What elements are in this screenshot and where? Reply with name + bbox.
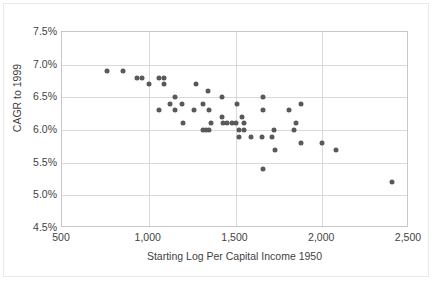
- data-point: [191, 108, 196, 113]
- y-axis-title: CAGR to 1999: [11, 43, 23, 153]
- data-point: [205, 88, 210, 93]
- data-point: [219, 114, 224, 119]
- data-point: [259, 134, 264, 139]
- gridline-horizontal: [62, 195, 407, 196]
- data-point: [209, 121, 214, 126]
- data-point: [240, 114, 245, 119]
- y-tick-label: 5.0%: [1, 189, 57, 200]
- data-point: [157, 108, 162, 113]
- data-point: [242, 121, 247, 126]
- data-point: [271, 128, 276, 133]
- data-point: [200, 101, 205, 106]
- y-tick-label: 7.0%: [1, 58, 57, 69]
- data-point: [207, 108, 212, 113]
- y-tick-label: 4.5%: [1, 222, 57, 233]
- gridline-horizontal: [62, 163, 407, 164]
- data-point: [292, 128, 297, 133]
- x-axis-title: Starting Log Per Capital Income 1950: [61, 250, 408, 262]
- y-tick-label: 7.5%: [1, 26, 57, 37]
- data-point: [146, 82, 151, 87]
- data-point: [162, 82, 167, 87]
- data-point: [236, 134, 241, 139]
- data-point: [139, 75, 144, 80]
- gridline-vertical: [149, 32, 150, 226]
- y-tick-label: 6.5%: [1, 91, 57, 102]
- gridline-horizontal: [62, 97, 407, 98]
- data-point: [320, 141, 325, 146]
- data-point: [167, 101, 172, 106]
- data-point: [261, 167, 266, 172]
- data-point: [294, 121, 299, 126]
- data-point: [105, 69, 110, 74]
- gridline-horizontal: [62, 65, 407, 66]
- scatter-chart-figure: 4.5%5.0%5.5%6.0%6.5%7.0%7.5% 5001,0001,5…: [0, 0, 432, 283]
- x-tick-label: 500: [52, 232, 70, 243]
- data-point: [242, 128, 247, 133]
- x-tick-label: 1,500: [221, 232, 247, 243]
- data-point: [389, 180, 394, 185]
- data-point: [219, 95, 224, 100]
- y-tick-label: 6.0%: [1, 124, 57, 135]
- data-point: [120, 69, 125, 74]
- data-point: [269, 134, 274, 139]
- data-point: [249, 134, 254, 139]
- x-tick-label: 2,500: [395, 232, 421, 243]
- y-tick-label: 5.5%: [1, 156, 57, 167]
- data-point: [233, 121, 238, 126]
- data-point: [261, 95, 266, 100]
- data-point: [207, 128, 212, 133]
- x-tick-label: 2,000: [308, 232, 334, 243]
- plot-area: [61, 31, 408, 227]
- data-point: [181, 121, 186, 126]
- data-point: [172, 108, 177, 113]
- x-axis-tick-labels: 5001,0001,5002,0002,500: [61, 232, 408, 246]
- data-point: [273, 147, 278, 152]
- x-tick-label: 1,000: [135, 232, 161, 243]
- gridline-horizontal: [62, 130, 407, 131]
- gridline-vertical: [322, 32, 323, 226]
- data-point: [261, 108, 266, 113]
- data-point: [287, 108, 292, 113]
- data-point: [172, 95, 177, 100]
- y-axis-tick-labels: 4.5%5.0%5.5%6.0%6.5%7.0%7.5%: [0, 31, 57, 227]
- data-point: [299, 101, 304, 106]
- data-point: [179, 101, 184, 106]
- data-point: [162, 75, 167, 80]
- data-point: [193, 82, 198, 87]
- data-point: [299, 141, 304, 146]
- data-point: [334, 147, 339, 152]
- data-point: [235, 101, 240, 106]
